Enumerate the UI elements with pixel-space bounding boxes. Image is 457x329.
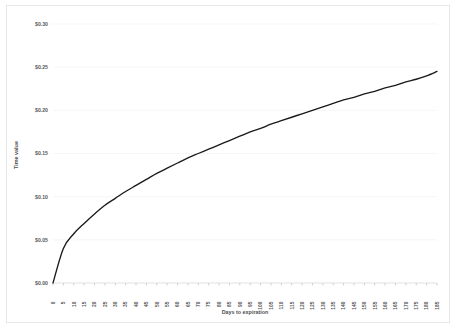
x-axis-tick-label: 150 — [362, 301, 367, 309]
x-axis-tick-label: 145 — [352, 301, 357, 309]
x-axis-tick-label: 140 — [341, 301, 346, 309]
x-axis-tick-label: 115 — [290, 301, 295, 309]
x-axis-tick-label: 55 — [165, 301, 170, 307]
x-axis-tick-label: 90 — [238, 301, 243, 307]
x-axis-tick-label: 70 — [196, 301, 201, 307]
x-axis-tick-label: 110 — [279, 301, 284, 309]
y-axis-tick-label: $0.20 — [35, 107, 48, 113]
x-axis-tick-label: 5 — [61, 301, 66, 304]
x-axis-tick-label: 130 — [321, 301, 326, 309]
x-axis-tick-label: 45 — [144, 301, 149, 307]
x-axis-tick-label: 165 — [393, 301, 398, 309]
x-axis-tick-label: 175 — [414, 301, 419, 309]
x-axis-tick-label: 135 — [331, 301, 336, 309]
x-axis-tick-label: 80 — [217, 301, 222, 307]
x-axis-tick-label: 60 — [175, 301, 180, 307]
gridlines — [53, 24, 437, 240]
x-axis-tick-label: 0 — [51, 301, 56, 304]
x-axis-tick-label: 185 — [435, 301, 440, 309]
x-axis-tick-label: 25 — [103, 301, 108, 307]
x-axis-tick-label: 120 — [300, 301, 305, 309]
x-axis-tick-label: 50 — [155, 301, 160, 307]
x-axis-tick-label: 65 — [186, 301, 191, 307]
x-axis-tick-label: 30 — [113, 301, 118, 307]
x-axis-tick-label: 105 — [269, 301, 274, 309]
x-axis-tick-label: 155 — [373, 301, 378, 309]
chart-container: $0.30$0.25$0.20$0.15$0.10$0.05$0.00 0510… — [0, 0, 457, 329]
x-axis-tick-label: 95 — [248, 301, 253, 307]
x-axis-tick-label: 35 — [123, 301, 128, 307]
y-axis-tick-label: $0.05 — [35, 237, 48, 243]
x-axis-tick-label: 170 — [404, 301, 409, 309]
x-axis-tick-label: 15 — [82, 301, 87, 307]
x-axis-tick-label: 10 — [72, 301, 77, 307]
y-axis-tick-label: $0.30 — [35, 21, 48, 27]
y-axis-tick-label: $0.10 — [35, 194, 48, 200]
y-axis-tick-label: $0.00 — [35, 280, 48, 286]
x-axis-tick-label: 180 — [424, 301, 429, 309]
x-axis-title: Days to expiration — [222, 309, 269, 315]
x-axis-tick-label: 125 — [310, 301, 315, 309]
x-axis-tick-label: 160 — [383, 301, 388, 309]
x-axis-tick-label: 75 — [206, 301, 211, 307]
x-axis-tick-label: 20 — [92, 301, 97, 307]
y-axis-tick-labels: $0.30$0.25$0.20$0.15$0.10$0.05$0.00 — [35, 21, 48, 286]
x-axis-tick-label: 40 — [134, 301, 139, 307]
line-chart-plot: $0.30$0.25$0.20$0.15$0.10$0.05$0.00 0510… — [0, 0, 457, 329]
y-axis-tick-label: $0.15 — [35, 150, 48, 156]
time-value-series-line — [53, 71, 437, 283]
y-axis-tick-label: $0.25 — [35, 64, 48, 70]
x-axis-tick-label: 85 — [227, 301, 232, 307]
y-axis-title: Time value — [13, 141, 19, 169]
